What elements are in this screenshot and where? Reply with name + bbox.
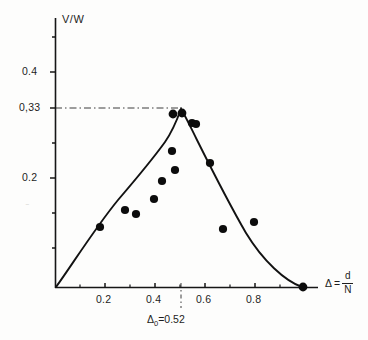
fraction-denominator: N xyxy=(342,285,353,296)
data-point xyxy=(219,225,227,233)
delta-zero-annotation: Δ0=0.52 xyxy=(147,313,185,328)
y-tick-label-0.33: 0,33 xyxy=(19,101,40,113)
chart-plot-area xyxy=(0,0,368,340)
x-axis-title-equals: = xyxy=(334,277,340,289)
x-tick-label-0.2: 0.2 xyxy=(96,293,111,305)
data-point xyxy=(250,218,258,226)
x-axis-title-symbol: Δ xyxy=(325,277,332,289)
data-point xyxy=(169,110,178,119)
data-point xyxy=(178,109,187,118)
data-point-group xyxy=(96,109,308,292)
x-axis-title: Δ = d N xyxy=(325,271,353,295)
fraction-numerator: d xyxy=(343,271,353,282)
x-axis-title-fraction: d N xyxy=(342,271,353,295)
y-axis-title: V/W xyxy=(62,13,84,25)
data-point-endpoint xyxy=(299,283,308,292)
data-point xyxy=(158,177,166,185)
delta-zero-value: =0.52 xyxy=(158,313,185,325)
data-point xyxy=(121,206,129,214)
x-tick-label-0.8: 0.8 xyxy=(246,293,261,305)
y-tick-label-0.2: 0.2 xyxy=(22,171,37,183)
data-point xyxy=(132,210,140,218)
data-point xyxy=(96,223,104,231)
data-point xyxy=(206,159,214,167)
data-point xyxy=(171,166,179,174)
x-tick-label-0.4: 0.4 xyxy=(146,293,161,305)
scan-artifact: ‾ xyxy=(26,203,29,212)
data-point xyxy=(168,147,176,155)
x-tick-label-0.6: 0.6 xyxy=(196,293,211,305)
fit-curve xyxy=(56,109,302,287)
data-point xyxy=(192,120,200,128)
y-tick-label-0.4: 0.4 xyxy=(22,65,37,77)
chart-figure: V/W 0.4 0,33 0.2 0.2 0.4 0.6 0.8 Δ0=0.52… xyxy=(0,0,368,340)
delta-zero-symbol: Δ xyxy=(147,313,154,325)
data-point xyxy=(150,195,158,203)
